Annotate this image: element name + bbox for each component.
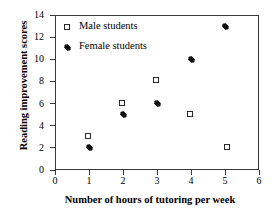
data-point-male (153, 77, 159, 83)
y-tick (50, 81, 55, 82)
y-tick-label: 14 (22, 10, 44, 20)
y-tick (50, 125, 55, 126)
x-tick-label: 6 (249, 176, 269, 186)
y-tick (50, 103, 55, 104)
x-tick-label: 3 (147, 176, 167, 186)
y-tick-label: 4 (22, 121, 44, 131)
y-tick (50, 147, 55, 148)
data-point-male (187, 111, 193, 117)
y-tick (50, 59, 55, 60)
x-tick-label: 4 (181, 176, 201, 186)
y-tick (50, 15, 55, 16)
y-tick (50, 37, 55, 38)
y-tick-label: 2 (22, 143, 44, 153)
y-tick-label: 10 (22, 54, 44, 64)
y-tick-label: 6 (22, 99, 44, 109)
data-point-male (224, 144, 230, 150)
filled-diamond-icon (63, 42, 75, 54)
open-square-icon (63, 22, 75, 34)
legend-label-female: Female students (79, 40, 147, 52)
x-tick-label: 2 (113, 176, 133, 186)
x-tick-label: 5 (215, 176, 235, 186)
data-point-male (85, 133, 91, 139)
y-tick-label: 0 (22, 165, 44, 175)
x-axis-title: Number of hours of tutoring per week (40, 194, 260, 205)
x-tick-label: 1 (79, 176, 99, 186)
y-tick-label: 12 (22, 32, 44, 42)
x-tick-label: 0 (45, 176, 65, 186)
data-point-male (119, 100, 125, 106)
scatter-chart: Reading improvement scores 02468101214 0… (0, 0, 276, 214)
legend-label-male: Male students (79, 20, 138, 32)
y-tick-label: 8 (22, 76, 44, 86)
